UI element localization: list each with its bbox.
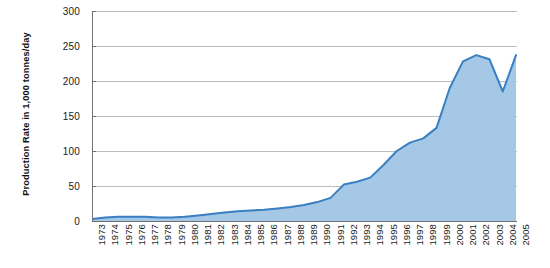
area-fill-path: [92, 55, 516, 221]
x-tick-label: 2000: [454, 224, 465, 246]
x-tick-label: 2002: [480, 224, 491, 246]
x-axis-tick-labels: 1973197419751976197719781979198019811982…: [92, 224, 517, 268]
x-tick-label: 1982: [215, 224, 226, 246]
x-tick-label: 1984: [242, 224, 253, 246]
x-tick-label: 1976: [136, 224, 147, 246]
x-tick-label: 1983: [229, 224, 240, 246]
x-tick-label: 1995: [388, 224, 399, 246]
x-tick-label: 2005: [520, 224, 531, 246]
x-tick-label: 1993: [361, 224, 372, 246]
x-tick-label: 1992: [348, 224, 359, 246]
x-tick-label: 1985: [255, 224, 266, 246]
x-tick-label: 2001: [467, 224, 478, 246]
y-tick-label: 50: [34, 181, 80, 192]
x-tick-label: 1973: [96, 224, 107, 246]
chart-page: Production Rate in 1,000 tonnes/day 0501…: [0, 0, 550, 268]
x-tick-label: 1978: [162, 224, 173, 246]
x-tick-label: 1991: [335, 224, 346, 246]
plot-area: [92, 11, 517, 222]
x-tick-label: 1987: [282, 224, 293, 246]
y-tick-label: 300: [34, 6, 80, 17]
y-tick-label: 200: [34, 76, 80, 87]
x-tick-label: 1975: [123, 224, 134, 246]
x-tick-label: 1981: [202, 224, 213, 246]
x-tick-label: 1979: [176, 224, 187, 246]
x-tick-label: 2003: [494, 224, 505, 246]
production-rate-area-chart: Production Rate in 1,000 tonnes/day 0501…: [0, 0, 550, 268]
y-tick-label: 150: [34, 111, 80, 122]
x-tick-label: 1999: [441, 224, 452, 246]
x-tick-label: 2004: [507, 224, 518, 246]
x-tick-label: 1994: [374, 224, 385, 246]
x-tick-label: 1974: [109, 224, 120, 246]
x-tick-label: 1986: [268, 224, 279, 246]
x-tick-label: 1980: [189, 224, 200, 246]
y-tick-label: 250: [34, 41, 80, 52]
x-tick-label: 1988: [295, 224, 306, 246]
x-tick-label: 1977: [149, 224, 160, 246]
y-axis-tick-labels: 050100150200250300: [34, 0, 80, 268]
x-tick-label: 1996: [401, 224, 412, 246]
y-axis-label: Production Rate in 1,000 tonnes/day: [21, 32, 31, 196]
chart-svg: [92, 11, 517, 222]
y-tick-label: 100: [34, 146, 80, 157]
x-tick-label: 1997: [414, 224, 425, 246]
x-tick-label: 1990: [321, 224, 332, 246]
x-tick-label: 1989: [308, 224, 319, 246]
x-tick-label: 1998: [427, 224, 438, 246]
y-tick-label: 0: [34, 216, 80, 227]
